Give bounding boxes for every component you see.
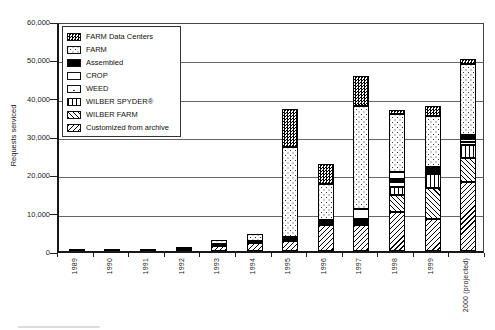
legend-item-spyder: WILBER SPYDER®: [67, 95, 176, 108]
bar-segment-customized: [247, 243, 263, 251]
bar-segment-customized: [211, 246, 227, 251]
x-tick-label: 1996: [319, 258, 328, 274]
y-tick-mark: [50, 61, 57, 62]
legend-label: WEED: [86, 84, 109, 93]
bar-segment-fdc: [425, 106, 441, 116]
legend-item-wilber_farm: WILBER FARM: [67, 108, 176, 121]
bar-1997: [353, 76, 369, 251]
bar-1990: [104, 249, 120, 251]
bar-segment-spyder: [460, 145, 476, 158]
y-tick-label: 10,000: [8, 211, 50, 219]
x-tick-mark: [128, 253, 129, 257]
bar-segment-customized: [318, 225, 334, 251]
bar-1996: [318, 164, 334, 251]
bar-segment-assembled: [140, 249, 156, 251]
legend-item-weed: WEED: [67, 82, 176, 95]
bar-segment-farm: [425, 116, 441, 167]
bar-segment-wilber_farm: [389, 195, 405, 211]
bar-segment-fdc: [282, 109, 298, 147]
bar-segment-customized: [353, 225, 369, 251]
bar-segment-assembled: [69, 249, 85, 251]
x-tick-label: 2000 (projected): [461, 258, 470, 312]
x-tick-label: 1989: [70, 258, 79, 274]
legend-label: FARM: [86, 45, 107, 54]
legend-label: WILBER FARM: [86, 110, 138, 119]
bar-segment-spyder: [425, 174, 441, 187]
bar-segment-spyder: [389, 187, 405, 195]
bar-segment-farm: [282, 147, 298, 237]
y-tick-label: 50,000: [8, 57, 50, 65]
bar-1999: [425, 106, 441, 251]
bar-1992: [176, 247, 192, 251]
stacked-bar-chart-figure: Requests serviced FARM Data CentersFARMA…: [0, 0, 495, 330]
backslash-hatch-swatch-icon: [67, 111, 81, 119]
x-tick-label: 1997: [354, 258, 363, 274]
legend-item-customized: Customized from archive: [67, 121, 176, 134]
bar-segment-fdc: [318, 164, 334, 184]
x-tick-label: 1992: [177, 258, 186, 274]
legend-label: WILBER SPYDER®: [86, 97, 153, 106]
cropped-caption-smudge: [18, 326, 100, 328]
y-tick-mark: [50, 214, 57, 215]
bar-segment-customized: [282, 241, 298, 251]
solid-black-swatch-icon: [67, 59, 81, 67]
bar-segment-customized: [460, 182, 476, 251]
y-tick-mark: [50, 138, 57, 139]
gridline: [59, 177, 483, 178]
y-tick-mark: [50, 253, 57, 254]
legend-item-fdc: FARM Data Centers: [67, 30, 176, 43]
x-tick-mark: [306, 253, 307, 257]
x-tick-mark: [484, 253, 485, 257]
bar-segment-crop: [353, 209, 369, 219]
legend-item-farm: FARM: [67, 43, 176, 56]
legend-item-assembled: Assembled: [67, 56, 176, 69]
legend-label: Assembled: [86, 58, 123, 67]
x-tick-mark: [413, 253, 414, 257]
chart-legend: FARM Data CentersFARMAssembledCROPWEEDWI…: [62, 26, 181, 137]
y-tick-label: 60,000: [8, 19, 50, 27]
sparse-dots-swatch-icon: [67, 46, 81, 54]
x-tick-mark: [93, 253, 94, 257]
dark-checker-swatch-icon: [67, 33, 81, 41]
legend-label: Customized from archive: [86, 123, 169, 132]
x-tick-mark: [448, 253, 449, 257]
bar-segment-wilber_farm: [425, 188, 441, 219]
bar-segment-customized: [389, 212, 405, 251]
y-tick-label: 40,000: [8, 96, 50, 104]
legend-label: FARM Data Centers: [86, 32, 153, 41]
x-tick-mark: [342, 253, 343, 257]
vertical-lines-swatch-icon: [67, 98, 81, 106]
plain-white-swatch-icon: [67, 72, 81, 80]
forwardslash-hatch-swatch-icon: [67, 124, 81, 132]
bar-segment-assembled: [176, 249, 192, 251]
x-tick-mark: [235, 253, 236, 257]
x-tick-label: 1990: [105, 258, 114, 274]
bar-1993: [211, 240, 227, 251]
bar-segment-crop: [389, 172, 405, 179]
legend-label: CROP: [86, 71, 108, 80]
gridline: [59, 216, 483, 217]
bar-segment-farm: [389, 114, 405, 172]
bar-segment-farm: [318, 184, 334, 220]
bar-segment-farm: [460, 64, 476, 135]
x-tick-mark: [57, 253, 58, 257]
bar-segment-customized: [425, 219, 441, 251]
bar-segment-assembled: [104, 249, 120, 251]
x-tick-mark: [199, 253, 200, 257]
bar-1995: [282, 109, 298, 251]
x-tick-label: 1998: [390, 258, 399, 274]
bar-2000--projected-: [460, 59, 476, 251]
y-tick-label: 30,000: [8, 134, 50, 142]
bar-1989: [69, 249, 85, 251]
bar-segment-farm: [247, 234, 263, 242]
x-tick-label: 1995: [283, 258, 292, 274]
x-tick-label: 1991: [141, 258, 150, 274]
bar-segment-fdc: [353, 76, 369, 106]
y-tick-mark: [50, 23, 57, 24]
x-tick-mark: [271, 253, 272, 257]
bar-1998: [389, 110, 405, 251]
y-tick-label: 0: [8, 249, 50, 257]
y-tick-mark: [50, 176, 57, 177]
x-tick-label: 1999: [426, 258, 435, 274]
bar-1991: [140, 249, 156, 251]
